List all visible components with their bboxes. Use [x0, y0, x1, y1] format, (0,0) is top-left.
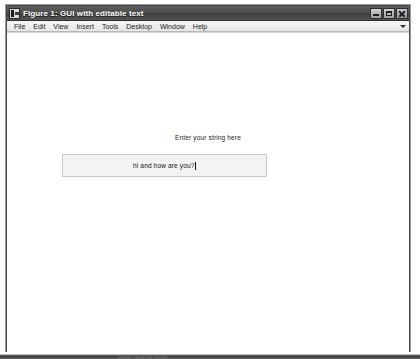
- string-edit-input[interactable]: hi and how are you?: [62, 154, 267, 177]
- close-button[interactable]: [396, 8, 408, 19]
- menu-item-help[interactable]: Help: [189, 21, 211, 32]
- menu-item-edit[interactable]: Edit: [29, 21, 49, 32]
- menu-item-file[interactable]: File: [10, 21, 29, 32]
- menu-item-insert[interactable]: Insert: [72, 21, 98, 32]
- bottom-screen-artifact: ghost taskbar sliver: [0, 352, 420, 359]
- menu-item-tools[interactable]: Tools: [98, 21, 122, 32]
- menu-bar: File Edit View Insert Tools Desktop Wind…: [7, 21, 409, 32]
- window-controls: [370, 8, 408, 19]
- text-caret: [195, 162, 196, 170]
- menu-item-view[interactable]: View: [49, 21, 72, 32]
- matlab-figure-icon: [9, 8, 20, 19]
- string-edit-value: hi and how are you?: [133, 162, 194, 169]
- maximize-button[interactable]: [383, 8, 395, 19]
- menu-item-window[interactable]: Window: [156, 21, 189, 32]
- screen: Figure 1: GUI with editable text File Ed…: [0, 0, 420, 359]
- figure-window: Figure 1: GUI with editable text File Ed…: [6, 5, 410, 353]
- chevron-down-icon[interactable]: [399, 22, 407, 30]
- figure-canvas: Enter your string here hi and how are yo…: [7, 32, 409, 352]
- window-title: Figure 1: GUI with editable text: [23, 9, 370, 18]
- menu-item-desktop[interactable]: Desktop: [122, 21, 156, 32]
- minimize-button[interactable]: [370, 8, 382, 19]
- title-bar[interactable]: Figure 1: GUI with editable text: [7, 6, 409, 21]
- prompt-label: Enter your string here: [7, 134, 409, 141]
- bottom-artifact-ghost-text: ghost taskbar sliver: [118, 354, 169, 359]
